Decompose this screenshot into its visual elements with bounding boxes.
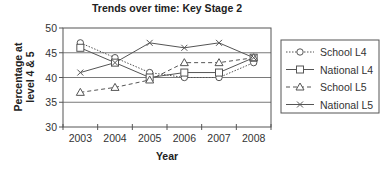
y-axis-label-line-1: Percentage at xyxy=(12,42,24,111)
square-marker xyxy=(216,69,223,76)
y-tick-label: 35 xyxy=(45,96,57,108)
square-marker xyxy=(77,44,84,51)
legend: School L4National L4School L5National L5 xyxy=(281,40,379,113)
legend-label: School L4 xyxy=(320,46,367,58)
x-tick-label: 2007 xyxy=(207,132,231,144)
circle-marker xyxy=(297,49,303,55)
square-marker xyxy=(297,66,304,73)
y-tick-label: 50 xyxy=(45,22,57,34)
legend-label: National L5 xyxy=(320,99,373,111)
plot-area: 3035404550200320042005200620072008 xyxy=(45,22,271,144)
x-tick-label: 2008 xyxy=(242,132,266,144)
x-marker xyxy=(77,70,83,76)
series-line xyxy=(80,43,253,73)
y-axis-label-line-2: level 4 & 5 xyxy=(24,51,36,103)
series-line xyxy=(80,43,253,78)
square-marker xyxy=(181,69,188,76)
line-chart: Trends over time: Key Stage 2 Percentage… xyxy=(0,0,392,171)
y-tick-label: 30 xyxy=(45,121,57,133)
x-tick-label: 2004 xyxy=(103,132,127,144)
x-tick-label: 2006 xyxy=(173,132,197,144)
chart-title: Trends over time: Key Stage 2 xyxy=(92,2,242,14)
series-school-l4 xyxy=(80,43,253,78)
legend-label: School L5 xyxy=(320,81,367,93)
y-tick-label: 40 xyxy=(45,72,57,84)
series-national-l5 xyxy=(80,43,253,73)
y-tick-label: 45 xyxy=(45,47,57,59)
x-tick-label: 2003 xyxy=(69,132,93,144)
x-axis-label: Year xyxy=(156,150,178,162)
x-tick-label: 2005 xyxy=(138,132,162,144)
legend-label: National L4 xyxy=(320,64,373,76)
y-axis-label: Percentage at level 4 & 5 xyxy=(12,42,36,111)
